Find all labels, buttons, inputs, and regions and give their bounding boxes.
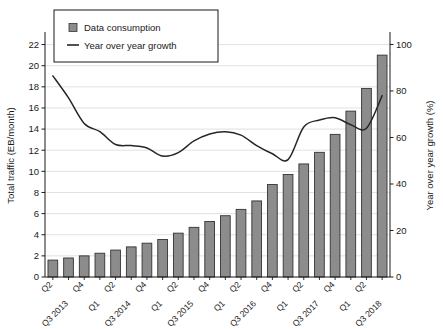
chart-container: 0246810121416182022020406080100Q2Q3 2013…	[0, 0, 443, 329]
x-axis-category-label: Q2	[290, 279, 305, 294]
dual-axis-bar-line-chart: 0246810121416182022020406080100Q2Q3 2013…	[0, 0, 443, 329]
y-axis-right-tick-label: 80	[396, 85, 407, 96]
y-axis-right-ticks: 020406080100	[390, 39, 412, 283]
x-axis-category-label: Q2	[39, 279, 54, 294]
y-axis-left-tick-label: 6	[34, 208, 39, 219]
x-axis-category-label: Q3 2016	[228, 298, 259, 329]
x-axis-category-label: Q4	[133, 279, 148, 294]
y-axis-right-tick-label: 0	[396, 271, 401, 282]
x-axis-category-label: Q4	[196, 279, 211, 294]
x-axis-category-label: Q3 2015	[165, 298, 196, 329]
bar	[64, 258, 74, 277]
y-axis-left-tick-label: 8	[34, 187, 39, 198]
legend-marker-square-icon	[69, 24, 77, 32]
legend-label-data-consumption: Data consumption	[84, 22, 161, 33]
bar	[377, 55, 387, 277]
y-axis-left-tick-label: 10	[28, 166, 39, 177]
y-axis-left-tick-label: 12	[28, 145, 39, 156]
x-axis-category-label: Q2	[227, 279, 242, 294]
x-axis-category-label: Q2	[165, 279, 180, 294]
x-axis-category-label: Q3 2014	[102, 298, 133, 329]
bar	[158, 239, 168, 277]
legend-box	[54, 10, 218, 62]
bar	[95, 253, 105, 277]
x-axis-category-label: Q1	[274, 298, 289, 313]
y-axis-left-tick-label: 16	[28, 102, 39, 113]
x-axis-category-label: Q1	[149, 298, 164, 313]
bar	[315, 152, 325, 277]
y-axis-right-tick-label: 40	[396, 178, 407, 189]
bar	[205, 222, 215, 277]
x-axis-category-label: Q3 2013	[40, 298, 71, 329]
bar	[268, 185, 278, 277]
y-axis-left-tick-label: 0	[34, 271, 39, 282]
bar	[48, 260, 58, 277]
y-axis-left-tick-label: 14	[28, 123, 39, 134]
bar	[252, 201, 262, 277]
bar	[236, 209, 246, 277]
y-axis-left-tick-label: 22	[28, 39, 39, 50]
bar	[79, 256, 89, 277]
bar	[362, 88, 372, 277]
chart-legend: Data consumptionYear over year growth	[54, 10, 218, 62]
bar	[126, 247, 136, 277]
y-axis-left-tick-label: 18	[28, 81, 39, 92]
x-axis-category-label: Q4	[70, 279, 85, 294]
y-axis-right-tick-label: 20	[396, 225, 407, 236]
x-axis-category-label: Q1	[212, 298, 227, 313]
bar	[330, 134, 340, 277]
x-axis-ticks: Q2Q3 2013Q4Q1Q2Q3 2014Q4Q1Q2Q3 2015Q4Q1Q…	[39, 277, 384, 329]
y-axis-left-tick-label: 4	[34, 229, 39, 240]
bar-series	[48, 55, 387, 277]
y-axis-left-tick-label: 20	[28, 60, 39, 71]
bar	[299, 164, 309, 277]
bar	[111, 250, 121, 277]
legend-label-yoy-growth: Year over year growth	[84, 40, 177, 51]
bar	[346, 111, 356, 277]
y-axis-left-title: Total traffic (EB/month)	[5, 107, 16, 203]
bar	[283, 175, 293, 277]
x-axis-category-label: Q4	[259, 279, 274, 294]
bar	[220, 216, 230, 277]
y-axis-right-title: Year over year growth (%)	[424, 100, 435, 210]
bar	[142, 243, 152, 277]
bar	[173, 233, 183, 277]
x-axis-category-label: Q1	[337, 298, 352, 313]
bar	[189, 227, 199, 277]
x-axis-category-label: Q3 2017	[290, 298, 321, 329]
x-axis-category-label: Q4	[321, 279, 336, 294]
x-axis-category-label: Q2	[353, 279, 368, 294]
y-axis-left-ticks: 0246810121416182022	[28, 39, 45, 282]
x-axis-category-label: Q3 2018	[353, 298, 384, 329]
x-axis-category-label: Q2	[102, 279, 117, 294]
x-axis-category-label: Q1	[86, 298, 101, 313]
y-axis-right-tick-label: 60	[396, 132, 407, 143]
y-axis-left-tick-label: 2	[34, 250, 39, 261]
y-axis-right-tick-label: 100	[396, 39, 412, 50]
